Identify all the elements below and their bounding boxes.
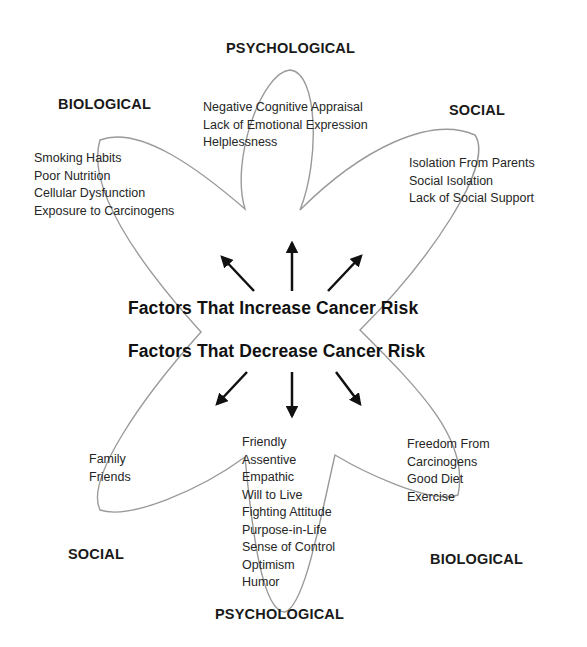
list-item: Carcinogens xyxy=(407,454,490,472)
list-item: Poor Nutrition xyxy=(34,168,174,186)
list-item: Friends xyxy=(89,469,131,487)
arrow-up-right-icon xyxy=(328,256,361,291)
list-item: Empathic xyxy=(242,469,335,487)
list-item: Will to Live xyxy=(242,487,335,505)
list-item: Negative Cognitive Appraisal xyxy=(203,99,368,117)
decrease-social-heading: SOCIAL xyxy=(68,546,124,562)
increase-title: Factors That Increase Cancer Risk xyxy=(128,298,418,319)
list-item: Humor xyxy=(242,574,335,592)
decrease-social-list: Family Friends xyxy=(89,451,131,486)
list-item: Freedom From xyxy=(407,436,490,454)
list-item: Isolation From Parents xyxy=(409,155,535,173)
decrease-title: Factors That Decrease Cancer Risk xyxy=(128,341,425,362)
list-item: Lack of Emotional Expression xyxy=(203,117,368,135)
arrow-down-left-icon xyxy=(217,372,247,404)
list-item: Lack of Social Support xyxy=(409,190,535,208)
list-item: Purpose-in-Life xyxy=(242,522,335,540)
list-item: Fighting Attitude xyxy=(242,504,335,522)
list-item: Social Isolation xyxy=(409,173,535,191)
arrow-down-right-icon xyxy=(336,372,360,404)
arrow-up-left-icon xyxy=(222,257,254,291)
increase-psychological-list: Negative Cognitive Appraisal Lack of Emo… xyxy=(203,99,368,152)
list-item: Optimism xyxy=(242,557,335,575)
decrease-biological-heading: BIOLOGICAL xyxy=(430,551,523,567)
list-item: Smoking Habits xyxy=(34,150,174,168)
increase-biological-list: Smoking Habits Poor Nutrition Cellular D… xyxy=(34,150,174,220)
increase-social-heading: SOCIAL xyxy=(449,102,505,118)
list-item: Helplessness xyxy=(203,134,368,152)
list-item: Exposure to Carcinogens xyxy=(34,203,174,221)
list-item: Good Diet xyxy=(407,471,490,489)
increase-psychological-heading: PSYCHOLOGICAL xyxy=(226,40,355,56)
increase-biological-heading: BIOLOGICAL xyxy=(58,96,151,112)
increase-social-list: Isolation From Parents Social Isolation … xyxy=(409,155,535,208)
list-item: Friendly xyxy=(242,434,335,452)
list-item: Family xyxy=(89,451,131,469)
list-item: Assentive xyxy=(242,452,335,470)
list-item: Sense of Control xyxy=(242,539,335,557)
decrease-psychological-heading: PSYCHOLOGICAL xyxy=(215,606,344,622)
decrease-psychological-list: Friendly Assentive Empathic Will to Live… xyxy=(242,434,335,592)
list-item: Cellular Dysfunction xyxy=(34,185,174,203)
list-item: Exercise xyxy=(407,489,490,507)
decrease-biological-list: Freedom From Carcinogens Good Diet Exerc… xyxy=(407,436,490,506)
